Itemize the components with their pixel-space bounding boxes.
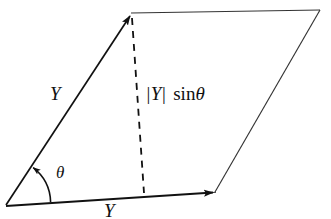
figure-canvas [0,0,331,219]
abs-bar-close-icon: | [161,83,166,104]
label-vector-side-y: Y [50,84,61,103]
parallelogram-right-edge [215,10,320,192]
label-vector-base-y-text: Y [104,200,115,219]
label-height-expression: |Y|sinθ [146,84,205,103]
label-vector-side-y-text: Y [50,83,61,104]
label-height-function: sin [173,83,195,104]
label-angle-theta: θ [56,164,64,181]
vector-parallelogram-figure: Y Y θ |Y|sinθ [0,0,331,219]
angle-arc [33,168,50,202]
label-height-magnitude: Y [151,83,162,104]
label-height-argument: θ [195,83,204,104]
label-vector-base-y: Y [104,201,115,219]
height-dashed-line [132,18,144,193]
parallelogram-top-edge [131,10,320,13]
label-angle-theta-text: θ [56,163,64,182]
vector-side-arrow [6,16,130,205]
